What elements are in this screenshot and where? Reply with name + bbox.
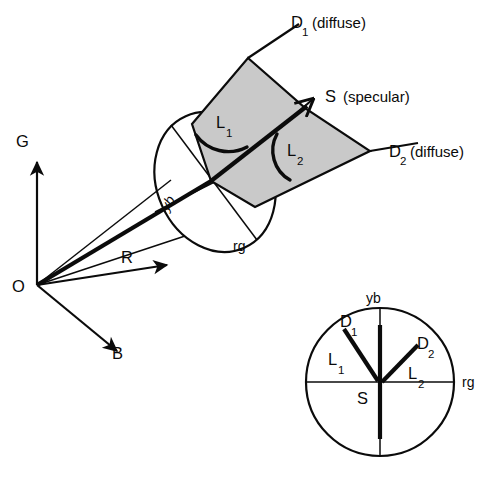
ellipse-label-rg: rg	[233, 238, 245, 254]
inset-label-d1-subscript: 1	[351, 326, 357, 338]
reflection-geometry-diagram: G O R B yb rg D 1 (diffuse) S (specular)…	[0, 0, 496, 480]
inset-label-rg: rg	[462, 374, 474, 390]
label-l2-subscript: 2	[297, 155, 303, 167]
axis-label-b: B	[112, 344, 123, 362]
label-l2: L	[287, 141, 296, 159]
label-l1-subscript: 1	[226, 127, 232, 139]
figure-root: G O R B yb rg D 1 (diffuse) S (specular)…	[0, 0, 496, 480]
inset-label-l1-subscript: 1	[338, 364, 344, 376]
label-d1-subscript: 1	[302, 26, 308, 38]
label-s: S	[325, 87, 336, 105]
axis-label-g: G	[16, 132, 29, 150]
inset-label-yb: yb	[366, 290, 381, 306]
inset-label-l2-subscript: 2	[418, 378, 424, 390]
label-l1: L	[216, 113, 225, 131]
label-d2-note: (diffuse)	[410, 143, 464, 160]
label-d1-note: (diffuse)	[312, 14, 366, 31]
inset-label-s: S	[357, 389, 368, 407]
axis-label-o: O	[12, 277, 25, 295]
label-d2-subscript: 2	[400, 155, 406, 167]
label-s-note: (specular)	[343, 88, 410, 105]
inset-label-d2-subscript: 2	[428, 348, 434, 360]
axis-label-r: R	[121, 248, 133, 266]
inset-label-l2: L	[408, 364, 417, 382]
inset-label-l1: L	[328, 350, 337, 368]
